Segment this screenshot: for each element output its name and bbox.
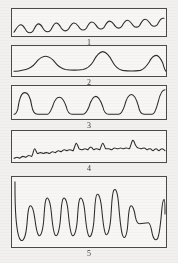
- waveform-panel-3: [11, 85, 167, 120]
- waveform-plot-5: [12, 177, 166, 247]
- waveform-panel-1: [11, 8, 167, 37]
- waveform-plot-3: [12, 86, 166, 119]
- waveform-trace-5: [15, 182, 165, 241]
- panel-label-4: 4: [11, 164, 167, 173]
- waveform-trace-2: [14, 52, 166, 72]
- waveform-panel-2: [11, 45, 167, 77]
- waveform-trace-1: [14, 18, 164, 32]
- waveform-panel-5: [11, 176, 167, 248]
- waveform-trace-3: [14, 90, 165, 115]
- figure-container: 1 2 3 4 5: [0, 0, 178, 263]
- panel-label-3: 3: [11, 121, 167, 130]
- waveform-plot-4: [12, 131, 166, 162]
- panel-label-5: 5: [11, 249, 167, 258]
- waveform-trace-4: [14, 140, 165, 158]
- waveform-panel-4: [11, 130, 167, 163]
- waveform-plot-2: [12, 46, 166, 76]
- waveform-plot-1: [12, 9, 166, 36]
